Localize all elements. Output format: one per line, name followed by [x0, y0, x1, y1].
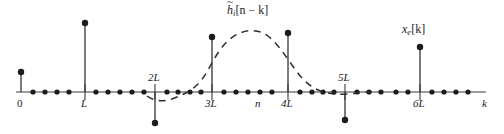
tick-label-3L: 3L — [205, 98, 217, 109]
tilde-accent-icon: ~ — [227, 0, 233, 7]
stem-dot-5L — [342, 117, 348, 123]
kernel-label-argument: [n − k] — [235, 3, 268, 17]
sequence-label-argument: [k] — [411, 22, 425, 36]
figure-container: 0 L 2L 3L n 4L 5L 6L k h~i[n − k] xe[k] — [0, 0, 504, 134]
stem-dot-0 — [18, 69, 24, 75]
stem-plot-svg — [0, 0, 504, 134]
axis-label-k: k — [482, 98, 487, 109]
kernel-label: h~i[n − k] — [227, 4, 268, 18]
stem-dot-4L — [285, 30, 291, 36]
sequence-label: xe[k] — [402, 23, 425, 37]
tick-label-0: 0 — [17, 98, 23, 109]
tick-label-2L: 2L — [148, 72, 160, 83]
tick-label-4L: 4L — [281, 98, 293, 109]
stem-dot-3L — [209, 34, 215, 40]
tick-label-n: n — [255, 98, 261, 109]
stem-group — [18, 20, 423, 126]
stem-dot-6L — [417, 44, 423, 50]
tick-label-5L: 5L — [338, 72, 350, 83]
kernel-label-tilde-wrap: h~ — [227, 4, 233, 16]
tick-label-6L: 6L — [413, 98, 425, 109]
stem-dot-L — [82, 20, 88, 26]
tick-label-L: L — [81, 98, 87, 109]
stem-dot-2L — [152, 120, 158, 126]
